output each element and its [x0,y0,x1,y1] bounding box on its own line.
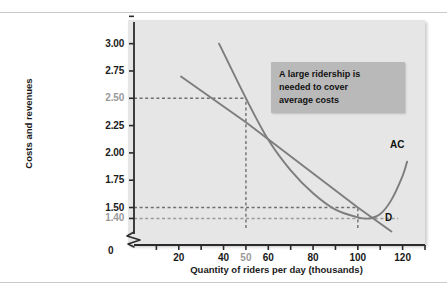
x-tick-label-80: 80 [293,252,333,263]
origin-tick-label: 0 [108,245,114,256]
x-tick-label-20: 20 [159,252,199,263]
y-tick-label-2.25: 2.25 [72,120,124,131]
y-tick-label-2.00: 2.00 [72,147,124,158]
y-tick-label-2.50: 2.50 [72,92,124,103]
y-tick-label-2.75: 2.75 [72,65,124,76]
y-axis-title: Costs and revenues [23,64,34,184]
plot-drawing-surface [0,0,447,290]
curve-label-d: D [385,212,392,223]
y-tick-label-1.40: 1.40 [72,212,124,223]
callout-note: A large ridership is needed to cover ave… [271,62,405,113]
callout-line-3: average costs [279,94,397,107]
y-tick-label-3.00: 3.00 [72,38,124,49]
callout-line-2: needed to cover [279,81,397,94]
x-axis-title: Quantity of riders per day (thousands) [128,264,425,275]
figure-container: Costs and revenues Quantity of riders pe… [0,0,447,290]
y-tick-label-1.50: 1.50 [72,202,124,213]
x-tick-label-60: 60 [248,252,288,263]
callout-line-1: A large ridership is [279,68,397,81]
x-tick-label-120: 120 [383,252,423,263]
x-tick-label-100: 100 [338,252,378,263]
curve-label-ac: AC [390,139,404,150]
y-tick-label-1.75: 1.75 [72,174,124,185]
